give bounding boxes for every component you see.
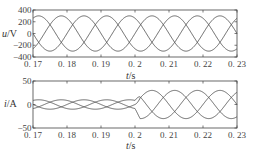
y-tick-label: 50	[23, 76, 33, 86]
voltage-plot: 4002000−200−400 0. 170. 180. 190. 20. 21…	[2, 5, 247, 81]
x-tick-label: 0. 23	[228, 130, 247, 140]
x-tick-label: 0. 17	[24, 130, 43, 140]
x-tick-label: 0. 22	[194, 59, 212, 69]
current-x-label: t/s	[126, 140, 136, 151]
x-tick-label: 0. 19	[92, 130, 111, 140]
x-tick-label: 0. 19	[92, 59, 111, 69]
x-tick-label: 0. 18	[58, 130, 77, 140]
x-tick-label: 0. 18	[58, 59, 77, 69]
x-tick-label: 0. 21	[160, 59, 178, 69]
y-tick-label: 400	[18, 5, 32, 15]
chart-figure: 4002000−200−400 0. 170. 180. 190. 20. 21…	[0, 0, 258, 151]
current-plot: 500−50 0. 170. 180. 190. 20. 210. 220. 2…	[4, 76, 247, 151]
x-tick-label: 0. 22	[194, 130, 212, 140]
y-tick-label: 0	[27, 29, 32, 39]
y-tick-label: −200	[13, 40, 32, 50]
current-x-ticks: 0. 170. 180. 190. 20. 210. 220. 23	[24, 81, 247, 140]
y-tick-label: 0	[27, 100, 32, 110]
voltage-series	[33, 16, 237, 51]
x-tick-label: 0. 23	[228, 59, 247, 69]
x-tick-label: 0. 2	[128, 130, 142, 140]
voltage-x-label: t/s	[126, 70, 136, 81]
current-series	[33, 90, 237, 118]
y-tick-label: 200	[18, 17, 32, 27]
x-tick-label: 0. 21	[160, 130, 178, 140]
voltage-y-label: u/V	[2, 28, 18, 39]
x-tick-label: 0. 2	[128, 59, 142, 69]
x-tick-label: 0. 17	[24, 59, 43, 69]
current-y-label: i/A	[4, 98, 18, 109]
current-y-ticks: 500−50	[17, 76, 237, 133]
